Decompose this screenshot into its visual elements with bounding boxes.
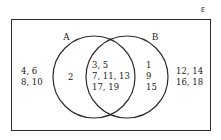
region-a-intersect-b: 3, 5 7, 11, 13 17, 19 xyxy=(92,60,130,92)
region-line: 15 xyxy=(146,82,157,92)
venn-diagram: ε A B 4, 6 8, 10 2 3, 5 7, 11, 13 17, 19… xyxy=(0,0,221,140)
region-line: 1 xyxy=(146,60,151,70)
region-a-only: 2 xyxy=(68,72,73,82)
region-outside-left: 4, 6 8, 10 xyxy=(21,66,43,87)
region-line: 4, 6 xyxy=(21,66,37,76)
region-b-only: 1 9 15 xyxy=(146,60,157,92)
region-outside-right: 12, 14 16, 18 xyxy=(176,66,203,87)
region-line: 8, 10 xyxy=(21,77,43,87)
region-line: 17, 19 xyxy=(92,82,119,92)
region-line: 2 xyxy=(68,72,73,82)
region-line: 16, 18 xyxy=(176,77,203,87)
set-b-label: B xyxy=(152,32,158,42)
region-line: 9 xyxy=(146,71,151,81)
region-line: 3, 5 xyxy=(92,60,108,70)
region-line: 12, 14 xyxy=(176,66,203,76)
region-line: 7, 11, 13 xyxy=(92,71,130,81)
set-a-label: A xyxy=(63,32,70,42)
universal-set-symbol: ε xyxy=(201,4,205,14)
